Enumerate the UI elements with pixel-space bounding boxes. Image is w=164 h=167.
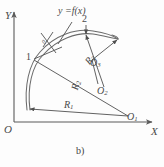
radius-line-r1	[30, 109, 128, 116]
radius-r1-index: 1	[70, 103, 73, 110]
center-o3-label: O3	[90, 58, 101, 69]
center-o1-index: 1	[134, 115, 137, 122]
point-1-label: 1	[26, 52, 31, 62]
origin-label: O	[4, 124, 12, 135]
curve-y-equals-f-of-x	[26, 30, 118, 110]
center-o2-index: 2	[104, 89, 107, 96]
curve-outer-stroke	[26, 30, 118, 110]
center-o2-label: O2	[97, 86, 108, 97]
ray-from-point-1	[34, 47, 62, 59]
figure-b-diagram: Y X O y =f(x) 1 2 0 R1 R2 R3 O1 O2 O3 b)	[0, 0, 164, 167]
center-o1-label: O1	[127, 112, 138, 123]
point-2-label: 2	[82, 14, 87, 24]
figure-caption: b)	[76, 146, 84, 156]
radius-r1-label: R1	[64, 100, 74, 111]
y-axis-label: Y	[5, 10, 11, 21]
x-axis-label: X	[151, 126, 158, 137]
radius-r2-label: R2	[70, 80, 83, 92]
center-o3-index: 3	[97, 61, 100, 68]
curve-inner-stroke	[29, 34, 118, 110]
